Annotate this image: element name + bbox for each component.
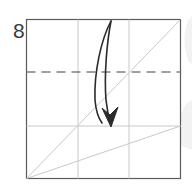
diagram-canvas: 8	[0, 0, 192, 187]
step-number-label: 8	[13, 19, 25, 42]
origami-step-figure: 8	[0, 0, 192, 187]
